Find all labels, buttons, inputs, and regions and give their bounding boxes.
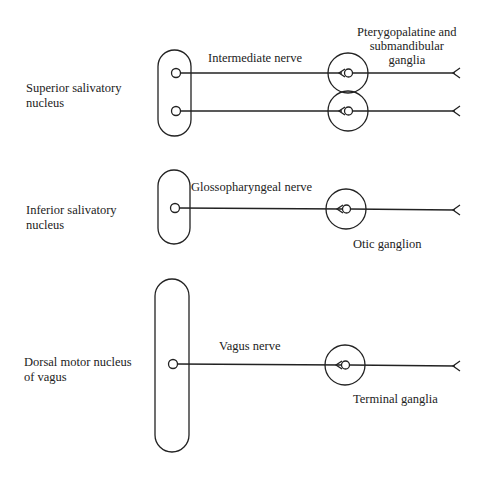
diagram: Superior salivatory nucleus Inferior sal… (0, 0, 485, 482)
superior-salivatory-nucleus-shape (158, 50, 191, 136)
nerve-label-intermediate: Intermediate nerve (208, 51, 302, 66)
ganglion-label-otic: Otic ganglion (353, 237, 421, 252)
nucleus-label-inferior-salivatory: Inferior salivatory nucleus (26, 203, 117, 233)
ganglion-label-pterygopalatine-submandibular: Pterygopalatine and submandibular gangli… (357, 25, 457, 67)
nerve-label-vagus: Vagus nerve (219, 339, 280, 354)
ganglion-label-terminal: Terminal ganglia (353, 392, 438, 407)
nucleus-label-dorsal-motor-vagus: Dorsal motor nucleus of vagus (24, 355, 132, 385)
neuron-soma (172, 69, 181, 78)
dorsal-motor-nucleus-shape (155, 279, 189, 452)
neuron-soma (172, 107, 181, 116)
nucleus-label-superior-salivatory: Superior salivatory nucleus (26, 81, 121, 111)
inferior-salivatory-nucleus-shape (158, 170, 190, 244)
nerve-label-glossopharyngeal: Glossopharyngeal nerve (191, 180, 312, 195)
